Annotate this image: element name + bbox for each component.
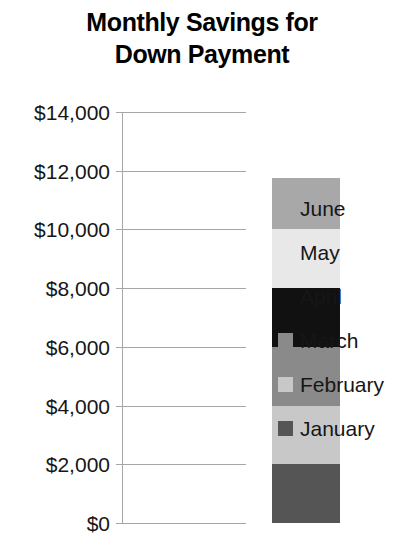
legend-item-january[interactable]: January bbox=[278, 406, 404, 450]
legend-label: January bbox=[300, 418, 375, 439]
y-axis-tick-label: $0 bbox=[0, 513, 110, 534]
legend-swatch-icon bbox=[278, 421, 293, 436]
legend-swatch-icon bbox=[278, 201, 293, 216]
chart-container: Monthly Savings for Down Payment $14,000… bbox=[0, 0, 404, 539]
legend-item-february[interactable]: February bbox=[278, 362, 404, 406]
y-axis-tick-label: $10,000 bbox=[0, 219, 110, 240]
y-axis-tick-label: $6,000 bbox=[0, 337, 110, 358]
legend-swatch-icon bbox=[278, 377, 293, 392]
legend-label: February bbox=[300, 374, 384, 395]
legend: JuneMayAprilMarchFebruaryJanuary bbox=[278, 186, 404, 450]
legend-swatch-icon bbox=[278, 245, 293, 260]
legend-item-june[interactable]: June bbox=[278, 186, 404, 230]
plot-area bbox=[122, 112, 246, 523]
legend-label: June bbox=[300, 198, 346, 219]
legend-item-march[interactable]: March bbox=[278, 318, 404, 362]
y-axis-tick-label: $8,000 bbox=[0, 278, 110, 299]
y-axis-tick-label: $14,000 bbox=[0, 102, 110, 123]
legend-item-may[interactable]: May bbox=[278, 230, 404, 274]
y-axis-tick-label: $2,000 bbox=[0, 454, 110, 475]
legend-label: April bbox=[300, 286, 342, 307]
legend-swatch-icon bbox=[278, 333, 293, 348]
chart-title: Monthly Savings for Down Payment bbox=[0, 6, 404, 70]
legend-item-april[interactable]: April bbox=[278, 274, 404, 318]
legend-label: May bbox=[300, 242, 340, 263]
gridline bbox=[122, 523, 246, 524]
y-axis-tick-label: $12,000 bbox=[0, 161, 110, 182]
legend-label: March bbox=[300, 330, 358, 351]
y-axis-tick-label: $4,000 bbox=[0, 396, 110, 417]
y-axis-tick bbox=[116, 523, 122, 524]
bar-segment-january[interactable] bbox=[272, 464, 340, 523]
legend-swatch-icon bbox=[278, 289, 293, 304]
